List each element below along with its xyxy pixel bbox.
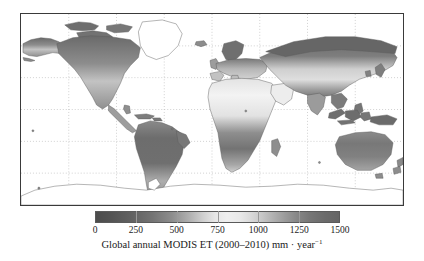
colorbar-tickmark	[218, 211, 219, 223]
colorbar-tick-labels: 0 250 500 750 1000 1250 1500	[95, 224, 340, 237]
colorbar-tickmark	[136, 211, 137, 223]
colorbar-tickmark	[177, 211, 178, 223]
colorbar-tick-label: 1500	[331, 224, 350, 237]
colorbar-tickmark	[299, 211, 300, 223]
colorbar-tick-label: 250	[129, 224, 143, 237]
land-hispaniola	[152, 118, 162, 121]
land-tasmania	[375, 173, 383, 178]
colorbar-tickmark	[258, 211, 259, 223]
land-island-dot-5	[318, 161, 320, 163]
world-map-panel	[20, 13, 404, 206]
colorbar	[95, 211, 340, 223]
land-korea	[365, 70, 371, 76]
land-island-dot-2	[171, 128, 173, 130]
land-island-dot-4	[32, 130, 34, 132]
land-island-dot-1	[38, 187, 40, 189]
colorbar-label-exponent: −1	[315, 238, 322, 246]
world-map-svg	[21, 14, 403, 205]
colorbar-tick-label: 1000	[249, 224, 268, 237]
colorbar-tick-label: 500	[170, 224, 184, 237]
colorbar-tick-label: 1250	[290, 224, 309, 237]
land-island-dot-3	[245, 110, 247, 112]
figure-root: 0 250 500 750 1000 1250 1500 Global annu…	[0, 0, 424, 261]
colorbar-axis-label: Global annual MODIS ET (2000–2010) mm · …	[0, 237, 424, 252]
colorbar-label-text: Global annual MODIS ET (2000–2010) mm · …	[101, 239, 315, 250]
colorbar-tick-label: 750	[210, 224, 224, 237]
colorbar-tick-label: 0	[93, 224, 98, 237]
